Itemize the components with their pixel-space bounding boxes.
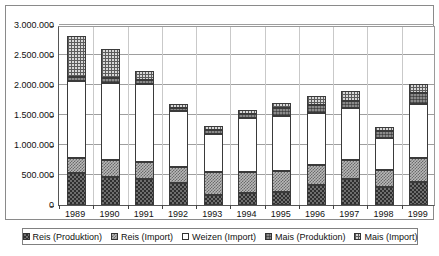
bar-segment[interactable]	[307, 185, 326, 205]
legend-label: Reis (Import)	[121, 232, 173, 242]
bar-segment[interactable]	[409, 104, 428, 158]
legend-entry[interactable]: Reis (Produktion)	[23, 232, 103, 242]
bar-segment[interactable]	[238, 114, 257, 118]
bar-segment[interactable]	[238, 193, 257, 205]
bar-segment[interactable]	[67, 81, 86, 158]
bar-segment[interactable]	[375, 127, 394, 131]
bar-segment[interactable]	[67, 158, 86, 172]
bar-segment[interactable]	[204, 134, 223, 172]
bar-segment[interactable]	[409, 158, 428, 182]
bar-segment[interactable]	[101, 49, 120, 78]
bar-segment[interactable]	[169, 167, 188, 184]
bar-stack-1999[interactable]	[409, 25, 428, 205]
bar-segment[interactable]	[409, 182, 428, 205]
bar-segment[interactable]	[341, 101, 360, 108]
bar-segment[interactable]	[307, 165, 326, 185]
bar-segment[interactable]	[204, 172, 223, 195]
bar-segment[interactable]	[341, 179, 360, 205]
bar-segment[interactable]	[204, 126, 223, 130]
bar-stack-1997[interactable]	[341, 25, 360, 205]
category-gridline	[367, 27, 368, 205]
bar-stack-1994[interactable]	[238, 25, 257, 205]
bar-segment[interactable]	[272, 192, 291, 205]
plot-area	[58, 21, 435, 207]
y-axis-tick-label: 2.000.000	[14, 81, 54, 90]
bar-segment[interactable]	[272, 108, 291, 116]
y-axis-tick-label: 3.000.000	[14, 21, 54, 30]
category-gridline	[299, 27, 300, 205]
legend-entry[interactable]: Reis (Import)	[111, 232, 173, 242]
bar-segment[interactable]	[135, 71, 154, 79]
x-axis-tick-label: 1993	[195, 209, 229, 219]
bar-segment[interactable]	[375, 187, 394, 205]
y-axis-tick-mark	[50, 206, 54, 207]
y-axis-tick-label: 1.000.000	[14, 141, 54, 150]
y-axis-labels: 0500.0001.000.0001.500.0002.000.0002.500…	[6, 21, 54, 207]
bar-segment[interactable]	[135, 80, 154, 84]
bar-segment[interactable]	[341, 108, 360, 160]
bar-segment[interactable]	[67, 36, 86, 77]
bar-segment[interactable]	[135, 162, 154, 179]
bar-segment[interactable]	[272, 171, 291, 192]
category-gridline	[128, 27, 129, 205]
bar-segment[interactable]	[101, 160, 120, 177]
bar-segment[interactable]	[375, 131, 394, 138]
legend-entry[interactable]: Mais (Import)	[354, 232, 417, 242]
bar-segment[interactable]	[101, 177, 120, 205]
bar-segment[interactable]	[204, 195, 223, 205]
legend-entry[interactable]: Weizen (Import)	[182, 232, 256, 242]
bar-segment[interactable]	[67, 173, 86, 205]
bar-segment[interactable]	[169, 104, 188, 108]
legend-label: Weizen (Import)	[192, 232, 256, 242]
bar-segment[interactable]	[307, 105, 326, 112]
legend-swatch-icon	[111, 233, 118, 240]
bar-segment[interactable]	[375, 138, 394, 170]
legend-label: Mais (Import)	[364, 232, 417, 242]
bar-segment[interactable]	[169, 183, 188, 205]
bar-segment[interactable]	[169, 111, 188, 166]
bar-segment[interactable]	[204, 130, 223, 134]
x-axis-tick-label: 1992	[161, 209, 195, 219]
bar-stack-1989[interactable]	[67, 25, 86, 205]
bar-segment[interactable]	[409, 84, 428, 94]
bar-segment[interactable]	[238, 110, 257, 114]
bar-segment[interactable]	[101, 78, 120, 83]
bar-segment[interactable]	[307, 113, 326, 165]
category-gridline	[402, 27, 403, 205]
bar-segment[interactable]	[135, 84, 154, 163]
bar-segment[interactable]	[272, 116, 291, 172]
x-axis-tick-label: 1991	[127, 209, 161, 219]
bar-segment[interactable]	[307, 96, 326, 105]
chart-legend: Reis (Produktion)Reis (Import)Weizen (Im…	[22, 228, 418, 245]
x-axis-tick-label: 1999	[401, 209, 435, 219]
bar-stack-1993[interactable]	[204, 25, 223, 205]
bar-segment[interactable]	[375, 170, 394, 187]
legend-swatch-icon	[182, 233, 189, 240]
bar-segment[interactable]	[169, 108, 188, 112]
x-axis-tick-label: 1994	[229, 209, 263, 219]
bar-segment[interactable]	[409, 93, 428, 103]
bar-stack-1995[interactable]	[272, 25, 291, 205]
legend-swatch-icon	[265, 233, 272, 240]
y-axis-tick-label: 2.500.000	[14, 51, 54, 60]
legend-entry[interactable]: Mais (Produktion)	[265, 232, 346, 242]
bar-segment[interactable]	[67, 77, 86, 81]
y-axis-tick-mark	[50, 56, 54, 57]
chart-frame: 0500.0001.000.0001.500.0002.000.0002.500…	[5, 5, 434, 220]
bar-stack-1998[interactable]	[375, 25, 394, 205]
y-axis-tick-mark	[50, 86, 54, 87]
bar-stack-1996[interactable]	[307, 25, 326, 205]
bar-segment[interactable]	[238, 172, 257, 193]
bar-segment[interactable]	[135, 179, 154, 205]
bar-segment[interactable]	[341, 91, 360, 101]
x-axis-labels: 1989199019911992199319941995199619971998…	[58, 209, 435, 223]
bar-segment[interactable]	[272, 103, 291, 108]
category-gridline	[265, 27, 266, 205]
bar-stack-1992[interactable]	[169, 25, 188, 205]
bar-segment[interactable]	[238, 118, 257, 172]
bar-stack-1990[interactable]	[101, 25, 120, 205]
bar-stack-1991[interactable]	[135, 25, 154, 205]
bar-segment[interactable]	[101, 83, 120, 160]
chart-figure: 0500.0001.000.0001.500.0002.000.0002.500…	[0, 0, 439, 256]
bar-segment[interactable]	[341, 160, 360, 179]
